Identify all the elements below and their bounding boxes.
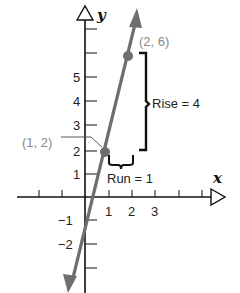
line-arrow-up-icon (129, 8, 142, 28)
x-axis (17, 189, 225, 205)
x-tick-label-1: 1 (105, 204, 112, 219)
y-tick-label-neg2: −2 (58, 237, 73, 252)
point-label-2-6: (2, 6) (139, 34, 169, 49)
line-arrow-down-icon (63, 274, 77, 293)
y-tick-label-3: 3 (73, 118, 80, 133)
point-label-1-2: (1, 2) (22, 135, 52, 150)
point-label-1-2-leader (61, 137, 102, 147)
x-axis-arrow-icon (211, 189, 225, 205)
run-bracket (109, 155, 133, 169)
y-axis-label: y (96, 6, 107, 24)
x-tick-label-2: 2 (128, 204, 135, 219)
y-tick-label-1: 1 (73, 167, 80, 182)
y-tick-label-5: 5 (73, 70, 80, 85)
y-axis-arrow-icon (77, 6, 93, 20)
y-tick-label-neg1: −1 (58, 213, 73, 228)
slope-diagram: y x 1 2 3 1 2 3 4 5 −1 −2 (1, 2) (2, 6) … (0, 0, 240, 293)
run-annotation: Run = 1 (107, 171, 153, 186)
x-axis-label: x (212, 169, 223, 187)
point-2-6 (123, 51, 133, 61)
rise-bracket (139, 53, 149, 150)
y-tick-label-2: 2 (73, 144, 80, 159)
y-tick-label-4: 4 (73, 94, 80, 109)
x-tick-label-3: 3 (151, 204, 158, 219)
rise-annotation: Rise = 4 (152, 96, 200, 111)
